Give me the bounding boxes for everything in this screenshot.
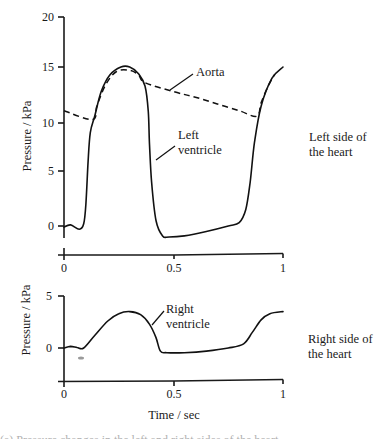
upper-chart: 20 15 10 5 0 Pressure / kPa 0 0.5 1 Aort… bbox=[20, 10, 367, 275]
lower-ytick-5: 5 bbox=[46, 289, 52, 303]
left-side-label-line1: Left side of bbox=[309, 130, 367, 144]
x-axis-label: Time / sec bbox=[148, 408, 200, 422]
lower-x-axis bbox=[58, 380, 283, 382]
left-ventricle-leader-line bbox=[156, 146, 175, 160]
figure-caption-cutoff: (a) Pressure changes in the left and rig… bbox=[0, 431, 388, 439]
upper-xtick-0: 0 bbox=[61, 261, 67, 275]
aorta-leader-line bbox=[170, 74, 193, 90]
lower-xtick-1: 1 bbox=[280, 387, 286, 401]
left-ventricle-label-line2: ventricle bbox=[178, 143, 222, 157]
upper-ytick-20: 20 bbox=[42, 10, 54, 24]
lower-xtick-0.5: 0.5 bbox=[167, 387, 182, 401]
lower-chart: 5 0 Pressure / kPa 0 0.5 1 Time / sec Ri… bbox=[19, 284, 373, 422]
upper-x-axis bbox=[58, 254, 283, 256]
left-ventricle-label-line1: Left bbox=[178, 128, 199, 142]
lower-y-axis-label: Pressure / kPa bbox=[19, 284, 33, 355]
right-ventricle-label-line1: Right bbox=[166, 302, 194, 316]
lower-ytick-0: 0 bbox=[46, 341, 52, 355]
cardiac-pressure-figure: 20 15 10 5 0 Pressure / kPa 0 0.5 1 Aort… bbox=[0, 0, 388, 439]
upper-y-ticks bbox=[58, 17, 64, 226]
upper-ytick-0: 0 bbox=[48, 219, 54, 233]
right-ventricle-leader-line bbox=[152, 311, 164, 325]
right-side-label-line2: the heart bbox=[308, 347, 352, 361]
right-ventricle-label-line2: ventricle bbox=[166, 317, 210, 331]
ink-smudge bbox=[78, 357, 84, 360]
upper-ytick-15: 15 bbox=[42, 60, 54, 74]
upper-ytick-5: 5 bbox=[48, 164, 54, 178]
upper-y-axis-label: Pressure / kPa bbox=[20, 100, 34, 171]
upper-xtick-0.5: 0.5 bbox=[167, 261, 182, 275]
left-side-label-line2: the heart bbox=[309, 145, 353, 159]
upper-ytick-10: 10 bbox=[42, 116, 54, 130]
lower-xtick-0: 0 bbox=[61, 387, 67, 401]
aorta-label: Aorta bbox=[196, 65, 225, 79]
upper-xtick-1: 1 bbox=[280, 261, 286, 275]
left-ventricle-curve bbox=[64, 66, 283, 237]
right-side-label-line1: Right side of bbox=[308, 332, 373, 346]
